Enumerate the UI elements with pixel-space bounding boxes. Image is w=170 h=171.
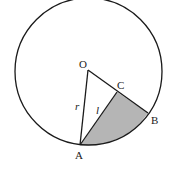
label-O: O [79, 58, 87, 70]
label-B: B [151, 114, 158, 126]
label-r: r [75, 100, 80, 112]
label-C: C [117, 79, 124, 91]
label-l: l [96, 104, 99, 116]
label-A: A [75, 149, 83, 161]
geometry-diagram: O C B A r l [0, 0, 170, 171]
circle [15, 0, 162, 145]
shaded-region [80, 92, 148, 145]
segment-OA [80, 70, 88, 145]
